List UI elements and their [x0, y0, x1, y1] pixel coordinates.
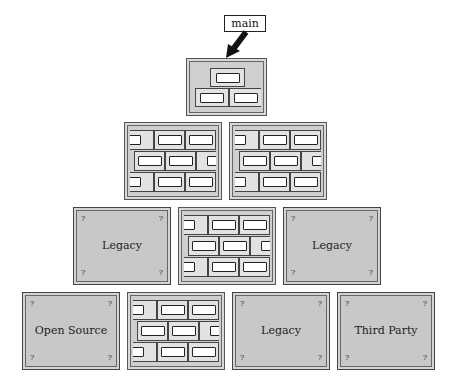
- brick-slot: [192, 305, 216, 315]
- brick-module: [229, 122, 327, 200]
- brick: [301, 151, 321, 171]
- brick-wall: [133, 298, 219, 364]
- brick: [195, 88, 229, 107]
- brick-slot: [172, 326, 196, 336]
- brick-slot: [294, 135, 318, 145]
- brick-slot: [210, 326, 219, 336]
- brick: [290, 172, 321, 192]
- brick-slot: [235, 177, 246, 187]
- brick: [259, 130, 290, 150]
- brick: [188, 236, 219, 256]
- brick-slot: [235, 135, 246, 145]
- brick-slot: [133, 305, 144, 315]
- brick: [184, 215, 208, 235]
- brick: [208, 215, 239, 235]
- brick: [154, 172, 185, 192]
- brick-slot: [158, 177, 182, 187]
- unknown-marker: ?: [291, 214, 295, 224]
- brick: [239, 257, 270, 277]
- brick: [239, 215, 270, 235]
- brick-module: [127, 292, 225, 370]
- module-title: Legacy: [233, 323, 329, 339]
- brick-slot: [243, 156, 267, 166]
- brick: [185, 172, 216, 192]
- brick-slot: [184, 220, 195, 230]
- legacy-module: ? ? Legacy ? ?: [73, 207, 171, 285]
- brick-slot: [189, 177, 213, 187]
- brick: [199, 321, 219, 341]
- brick: [184, 257, 208, 277]
- unknown-marker: ?: [81, 214, 85, 224]
- brick: [157, 342, 188, 362]
- brick-slot: [243, 262, 267, 272]
- brick: [185, 130, 216, 150]
- brick-slot: [130, 177, 141, 187]
- brick-slot: [192, 347, 216, 357]
- brick: [208, 257, 239, 277]
- third-party-module: ? ? Third Party ? ?: [337, 292, 435, 370]
- brick: [130, 130, 154, 150]
- unknown-marker: ?: [423, 353, 427, 363]
- brick: [154, 130, 185, 150]
- brick-slot: [261, 241, 270, 251]
- brick: [133, 342, 157, 362]
- unknown-marker: ?: [30, 353, 34, 363]
- brick-slot: [161, 305, 185, 315]
- brick: [188, 300, 219, 320]
- unknown-marker: ?: [30, 299, 34, 309]
- brick: [134, 151, 165, 171]
- brick-slot: [212, 262, 236, 272]
- brick-slot: [184, 262, 195, 272]
- brick: [270, 151, 301, 171]
- module-title: Legacy: [74, 238, 170, 254]
- module-title: Legacy: [284, 238, 380, 254]
- brick-slot: [158, 135, 182, 145]
- main-module: [186, 58, 267, 116]
- brick-slot: [138, 156, 162, 166]
- brick: [235, 172, 259, 192]
- unknown-marker: ?: [369, 214, 373, 224]
- brick: [168, 321, 199, 341]
- brick-slot: [189, 135, 213, 145]
- brick-slot: [312, 156, 321, 166]
- brick-wall: [192, 64, 261, 110]
- brick-slot: [234, 93, 258, 103]
- brick: [239, 151, 270, 171]
- brick-slot: [263, 135, 287, 145]
- brick: [137, 321, 168, 341]
- brick: [188, 342, 219, 362]
- unknown-marker: ?: [108, 353, 112, 363]
- brick: [157, 300, 188, 320]
- open-source-module: ? ? Open Source ? ?: [22, 292, 120, 370]
- unknown-marker: ?: [240, 353, 244, 363]
- brick-slot: [141, 326, 165, 336]
- module-title: Open Source: [23, 323, 119, 339]
- brick-slot: [243, 220, 267, 230]
- unknown-marker: ?: [423, 299, 427, 309]
- brick: [229, 88, 261, 107]
- brick: [219, 236, 250, 256]
- brick-slot: [200, 93, 224, 103]
- unknown-marker: ?: [81, 268, 85, 278]
- brick-slot: [294, 177, 318, 187]
- brick-wall: [184, 213, 270, 279]
- unknown-marker: ?: [345, 299, 349, 309]
- brick-slot: [169, 156, 193, 166]
- brick-wall: [235, 128, 321, 194]
- brick-slot: [130, 135, 141, 145]
- unknown-marker: ?: [345, 353, 349, 363]
- brick: [290, 130, 321, 150]
- brick-module: [124, 122, 222, 200]
- unknown-marker: ?: [108, 299, 112, 309]
- brick: [165, 151, 196, 171]
- brick: [235, 130, 259, 150]
- brick-slot: [216, 73, 240, 83]
- brick-slot: [223, 241, 247, 251]
- unknown-marker: ?: [318, 353, 322, 363]
- legacy-module: ? ? Legacy ? ?: [232, 292, 330, 370]
- unknown-marker: ?: [159, 268, 163, 278]
- brick-slot: [161, 347, 185, 357]
- unknown-marker: ?: [291, 268, 295, 278]
- brick: [130, 172, 154, 192]
- unknown-marker: ?: [369, 268, 373, 278]
